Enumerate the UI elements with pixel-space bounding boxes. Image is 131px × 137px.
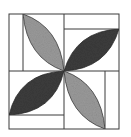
quilt-block-diagram <box>0 0 131 137</box>
